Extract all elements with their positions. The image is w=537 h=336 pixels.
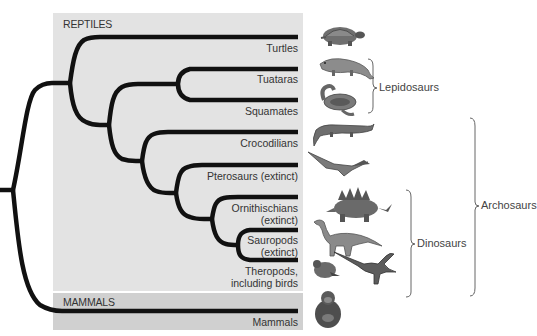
- taxon-label-tuataras: Tuataras: [257, 73, 298, 85]
- archosaurs-bracket: [470, 118, 479, 296]
- branch-diapsids: [70, 83, 109, 125]
- group-label-lepidosaurs: Lepidosaurs: [379, 81, 439, 93]
- taxon-label-sauropods: Sauropods (extinct): [247, 234, 298, 258]
- branch-lepidosaurs: [109, 84, 178, 125]
- animal-illustrations: [308, 27, 396, 328]
- pterosaur-icon: [308, 152, 370, 176]
- taxon-label-squamates: Squamates: [245, 105, 298, 117]
- branch-amniote-to-reptiles: [13, 83, 70, 190]
- crocodile-icon: [313, 124, 374, 146]
- branch-dinosaurs: [176, 193, 212, 219]
- taxon-label-theropods-line2: including birds: [231, 277, 298, 289]
- group-label-dinosaurs: Dinosaurs: [417, 237, 467, 249]
- dinosaurs-bracket: [406, 190, 415, 297]
- taxon-label-theropods-line1: Theropods,: [231, 265, 298, 277]
- taxon-label-ornithischians: Ornithischians (extinct): [231, 202, 298, 226]
- theropod-icon: [334, 252, 396, 284]
- lepidosaurs-bracket: [368, 59, 377, 113]
- pigeon-icon: [313, 260, 340, 278]
- taxon-label-pterosaurs: Pterosaurs (extinct): [207, 170, 298, 182]
- taxon-label-mammals: Mammals: [252, 316, 298, 328]
- stegosaurus-icon: [326, 187, 392, 222]
- chimpanzee-icon: [315, 291, 341, 328]
- branch-ornithodirans: [142, 161, 176, 193]
- taxon-label-theropods: Theropods, including birds: [231, 265, 298, 289]
- snake-icon: [322, 86, 356, 115]
- tuatara-icon: [320, 59, 374, 79]
- branch-archosaurs: [109, 125, 142, 161]
- sauropod-icon: [314, 220, 382, 256]
- branch-squamates: [178, 84, 298, 100]
- taxon-label-turtles: Turtles: [266, 42, 298, 54]
- turtle-icon: [321, 27, 365, 46]
- taxon-label-sauropods-line2: (extinct): [247, 246, 298, 258]
- taxon-label-ornithischians-line1: Ornithischians: [231, 202, 298, 214]
- taxon-label-crocodilians: Crocodilians: [240, 137, 298, 149]
- taxon-label-ornithischians-line2: (extinct): [231, 214, 298, 226]
- taxon-label-sauropods-line1: Sauropods: [247, 234, 298, 246]
- group-label-archosaurs: Archosaurs: [481, 199, 537, 211]
